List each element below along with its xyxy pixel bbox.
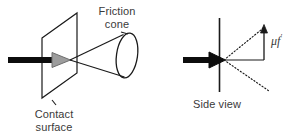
applied-force-arrow-head	[52, 53, 71, 68]
friction-cone-upper-edge	[70, 35, 124, 61]
mu-f-prime-text: ′	[280, 33, 282, 42]
cone-boundary-lower-dotted	[224, 60, 269, 91]
friction-cone-label: Friction cone	[88, 5, 146, 30]
right-diagram-group	[183, 18, 269, 92]
cone-boundary-upper-dotted	[224, 28, 264, 61]
side-view-force-arrow-head	[209, 52, 226, 68]
mu-f-magnitude-label: μf′	[271, 33, 282, 49]
mu-f-base-text: μf	[271, 34, 280, 48]
contact-surface-label: Contact surface	[19, 108, 89, 133]
friction-cone-figure: Friction cone Contact surface Side view …	[0, 0, 301, 138]
side-view-label: Side view	[182, 98, 252, 111]
friction-magnitude-vector-head	[261, 25, 268, 34]
contact-surface-leader	[52, 100, 56, 105]
friction-cone-base-ellipse	[113, 32, 140, 79]
